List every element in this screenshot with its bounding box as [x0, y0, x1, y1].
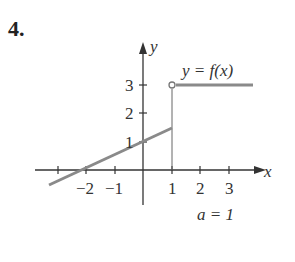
left-line-segment [49, 128, 172, 185]
x-tick-label: 1 [168, 179, 177, 198]
x-tick-label: −2 [76, 179, 94, 198]
y-tick-label: 1 [125, 133, 134, 152]
x-axis-label: x [263, 162, 272, 181]
open-circle-icon [169, 82, 175, 88]
x-tick-label: 3 [225, 179, 234, 198]
function-graph: y x −2 −1 1 2 3 1 2 3 y = f(x) a = 1 [0, 0, 295, 262]
y-axis-arrow-icon [139, 42, 147, 54]
function-label: y = f(x) [180, 61, 233, 80]
x-tick-label: −1 [105, 179, 123, 198]
annotation-label: a = 1 [197, 205, 234, 224]
y-tick-label: 3 [125, 76, 134, 95]
y-axis-label: y [148, 37, 158, 56]
x-tick-label: 2 [196, 179, 205, 198]
y-tick-label: 2 [125, 104, 134, 123]
